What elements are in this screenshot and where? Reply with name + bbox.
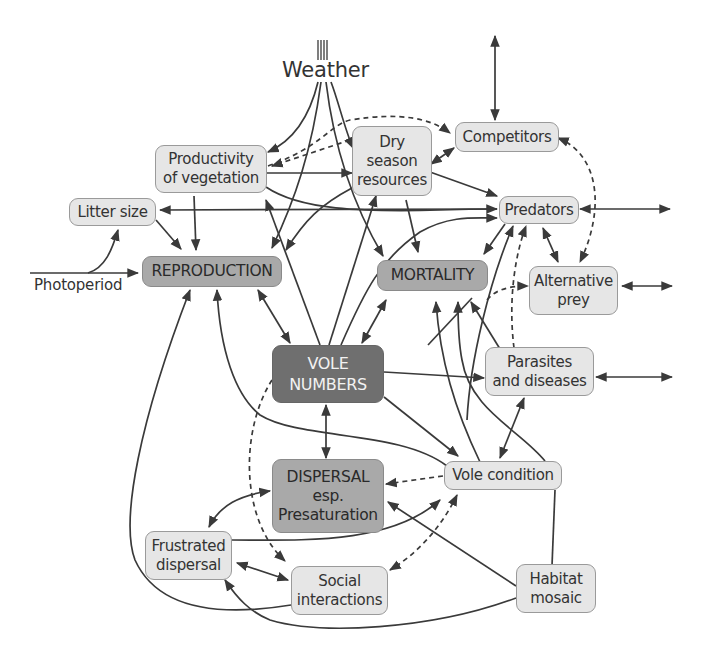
edge-habitat-volecondition: [552, 490, 555, 566]
node-litter-size: Litter size: [69, 198, 156, 226]
edge-predators-mortality: [484, 224, 505, 254]
edge-photoperiod-littersize: [88, 230, 118, 273]
node-competitors: Competitors: [455, 122, 559, 152]
edge-productivity-reproduction: [194, 196, 196, 250]
edge-volenumbers-volecondition: [384, 397, 458, 456]
edge-parasites-line: [428, 298, 472, 345]
node-frustrated-dispersal: Frustrated dispersal: [145, 531, 232, 580]
weather-label: Weather: [282, 58, 369, 82]
edge-mortality-volenumbers: [362, 300, 386, 343]
edge-volenumbers-parasites: [384, 372, 484, 378]
node-productivity: Productivity of vegetation: [155, 145, 267, 193]
edge-dryseason-predators: [430, 172, 497, 196]
node-dry-season: Dry season resources: [352, 126, 432, 196]
vole-population-diagram: Weather Photoperiod Competitors Producti…: [0, 0, 703, 654]
edge-volenumbers-dryseason: [329, 196, 376, 345]
edge-weather-reproduction: [272, 82, 321, 248]
edge-dashed-altprey: [487, 286, 528, 300]
node-predators: Predators: [499, 196, 579, 224]
edge-frustrated-social: [237, 563, 288, 580]
edge-parasites-volecondition: [500, 398, 524, 458]
edge-dryseason-reproduction: [286, 188, 352, 250]
edge-dashed-to-productivity: [272, 140, 350, 166]
edge-littersize-reproduction: [156, 220, 181, 249]
node-dispersal: DISPERSAL esp. Presaturation: [272, 459, 384, 533]
node-habitat-mosaic: Habitat mosaic: [516, 564, 596, 613]
edge-reproduction-volenumbers: [258, 290, 290, 343]
node-social-interactions: Social interactions: [291, 566, 388, 615]
edge-dashed-volecondition-dispersal: [386, 476, 443, 484]
node-mortality: MORTALITY: [377, 260, 488, 291]
photoperiod-label: Photoperiod: [34, 276, 122, 294]
edge-dashed-volecondition-social: [390, 495, 457, 570]
node-alternative-prey: Alternative prey: [529, 266, 618, 315]
edge-littersize-predators: [160, 209, 497, 210]
node-reproduction: REPRODUCTION: [142, 256, 282, 287]
edge-dryseason-mortality: [406, 200, 418, 252]
node-vole-numbers: VOLE NUMBERS: [272, 345, 384, 403]
connections-layer: [0, 0, 703, 654]
node-parasites: Parasites and diseases: [485, 347, 594, 396]
edge-frustrated-dispersal: [209, 491, 270, 527]
edge-dryseason-competitors: [431, 148, 454, 164]
node-vole-condition: Vole condition: [444, 461, 562, 490]
weather-bars-icon: [318, 40, 327, 60]
edge-weather-dryseason: [331, 82, 353, 148]
edge-predators-altprey: [543, 228, 558, 262]
edge-habitat-dispersal: [388, 502, 516, 586]
